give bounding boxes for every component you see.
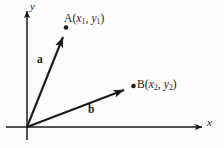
point-b-dot (131, 84, 136, 89)
point-a-x-var: x (76, 12, 81, 24)
point-a-close-paren: ) (100, 12, 104, 24)
point-a-label: A(x1, y1) (64, 13, 104, 25)
point-a-y-var: y (91, 12, 96, 24)
point-b-close-paren: ) (173, 78, 177, 90)
point-a-x-sub: 1 (82, 17, 86, 26)
y-axis-label: y (30, 1, 35, 12)
x-axis-label: x (207, 117, 212, 128)
vector-b-label: b (88, 104, 94, 116)
point-b-x-sub: 2 (154, 83, 158, 92)
vector-diagram-figure: y x A(x1, y1) B(x2, y2) a b (0, 0, 224, 148)
diagram-canvas (0, 0, 224, 148)
point-b-y-sub: 2 (169, 83, 173, 92)
vector-a-arrow (27, 37, 63, 127)
point-a-dot (64, 25, 69, 30)
vector-a-label: a (37, 54, 43, 66)
point-b-label: B(x2, y2) (137, 79, 177, 91)
point-b-name: B (137, 78, 145, 90)
point-a-y-sub: 1 (97, 17, 101, 26)
vector-b-arrow (27, 90, 124, 127)
